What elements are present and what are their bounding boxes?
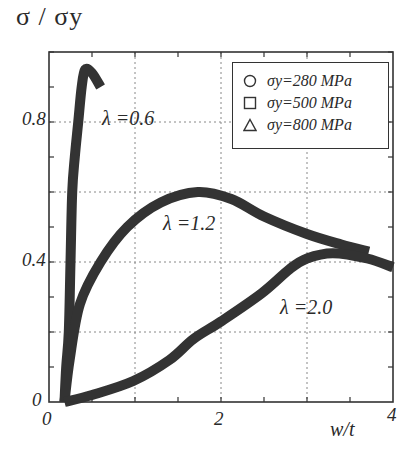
circle-marker-icon	[241, 74, 259, 88]
y-tick-0: 0	[32, 389, 42, 411]
legend-label-800: σy=800 MPa	[267, 116, 352, 134]
square-marker-icon	[241, 96, 259, 110]
curve-label-lambda-0.6: λ =0.6	[102, 107, 154, 130]
legend-item-280: σy=280 MPa	[241, 70, 388, 92]
legend-label-500: σy=500 MPa	[267, 94, 352, 112]
legend-item-500: σy=500 MPa	[241, 92, 388, 114]
curve-label-lambda-1.2: λ =1.2	[163, 212, 215, 235]
x-axis-label: w/t	[330, 418, 354, 441]
triangle-marker-icon	[241, 118, 259, 132]
curve-2.0	[64, 253, 393, 402]
legend: σy=280 MPa σy=500 MPa σy=800 MPa	[232, 62, 389, 149]
y-axis-label: σ / σy	[16, 2, 83, 32]
y-tick-0.4: 0.4	[22, 249, 46, 271]
y-tick-0.8: 0.8	[22, 108, 46, 130]
legend-label-280: σy=280 MPa	[267, 72, 352, 90]
x-tick-2: 2	[214, 408, 224, 430]
x-tick-0: 0	[42, 408, 52, 430]
legend-item-800: σy=800 MPa	[241, 114, 388, 136]
curve-label-lambda-2.0: λ =2.0	[280, 296, 332, 319]
x-tick-4: 4	[387, 404, 397, 426]
